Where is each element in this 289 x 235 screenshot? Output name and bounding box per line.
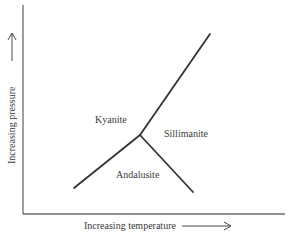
boundary-andalusite-sillimanite xyxy=(140,135,193,192)
x-axis-label: Increasing temperature xyxy=(84,220,176,231)
y-axis-label-group: Increasing pressure xyxy=(6,33,17,164)
axes xyxy=(23,5,285,214)
phase-label-sillimanite: Sillimanite xyxy=(164,128,208,139)
phase-label-kyanite: Kyanite xyxy=(95,114,127,125)
boundary-kyanite-andalusite xyxy=(74,135,140,188)
up-arrow-icon xyxy=(8,33,16,61)
right-arrow-icon xyxy=(182,222,231,230)
y-axis-label: Increasing pressure xyxy=(6,86,17,164)
phase-label-andalusite: Andalusite xyxy=(116,169,160,180)
phase-diagram: Kyanite Sillimanite Andalusite Increasin… xyxy=(0,0,289,235)
x-axis-label-group: Increasing temperature xyxy=(84,220,231,231)
boundary-kyanite-sillimanite xyxy=(140,34,210,135)
